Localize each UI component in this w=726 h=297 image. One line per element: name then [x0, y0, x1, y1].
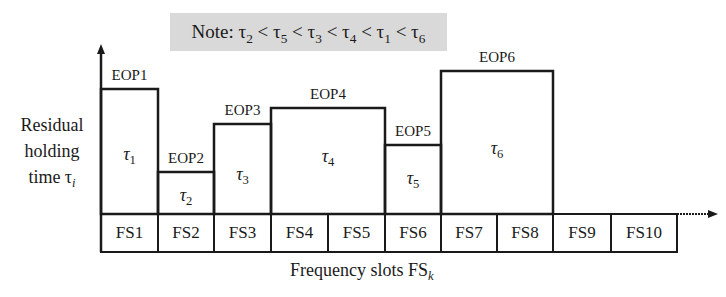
- tau2-label: τ2: [158, 185, 214, 206]
- tau1-label: τ1: [101, 144, 158, 165]
- tau4-label: τ4: [271, 146, 385, 167]
- fs1-label: FS1: [101, 214, 158, 252]
- fs9-label: FS9: [553, 214, 611, 252]
- fs7-label: FS7: [441, 214, 497, 252]
- fs3-label: FS3: [214, 214, 271, 252]
- x-axis-arrow-icon: [708, 210, 718, 218]
- eop4-label: EOP4: [271, 86, 385, 103]
- x-axis-label: Frequency slots FSk: [290, 260, 434, 281]
- eop6-label: EOP6: [441, 49, 553, 66]
- tau5-label: τ5: [385, 168, 441, 189]
- fs8-label: FS8: [497, 214, 553, 252]
- fs10-label: FS10: [611, 214, 677, 252]
- fs6-label: FS6: [385, 214, 441, 252]
- eop3-label: EOP3: [214, 102, 271, 119]
- fs2-label: FS2: [158, 214, 214, 252]
- fs5-label: FS5: [328, 214, 385, 252]
- eop5-label: EOP5: [385, 123, 441, 140]
- tau3-label: τ3: [214, 164, 271, 185]
- tau6-label: τ6: [441, 138, 553, 159]
- eop1-label: EOP1: [101, 67, 158, 84]
- fs4-label: FS4: [271, 214, 328, 252]
- y-axis-arrow-icon: [97, 44, 105, 54]
- eop2-label: EOP2: [158, 150, 214, 167]
